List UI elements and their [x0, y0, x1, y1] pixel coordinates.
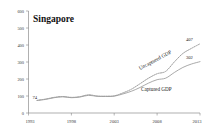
y-axis-ticks — [26, 11, 29, 113]
captured-end-value-label: 302 — [186, 55, 194, 60]
uncaptured-gdp-series-label: Uncaptured GDP — [138, 49, 173, 71]
chart-container: 0 100 200 300 400 500 600 1993 1998 2003… — [0, 0, 207, 135]
x-tick-label-2013: 2013 — [192, 119, 202, 124]
uncaptured-end-value-label: 407 — [186, 37, 194, 42]
y-tick-label-100: 100 — [17, 94, 24, 99]
y-tick-label-500: 500 — [17, 26, 24, 31]
y-tick-label-200: 200 — [17, 77, 24, 82]
x-tick-label-1998: 1998 — [67, 119, 77, 124]
x-axis-ticks — [29, 113, 201, 116]
x-tick-label-1993: 1993 — [25, 119, 35, 124]
y-tick-label-0: 0 — [22, 111, 25, 116]
y-tick-label-300: 300 — [17, 60, 24, 65]
line-chart: 0 100 200 300 400 500 600 1993 1998 2003… — [0, 0, 207, 135]
chart-title: Singapore — [33, 14, 74, 24]
y-tick-label-600: 600 — [17, 9, 24, 14]
captured-gdp-series-label: Captured GDP — [141, 86, 172, 92]
x-tick-label-2008: 2008 — [153, 119, 163, 124]
start-value-label: 74 — [33, 95, 38, 100]
y-tick-label-400: 400 — [17, 43, 24, 48]
x-tick-label-2003: 2003 — [110, 119, 120, 124]
